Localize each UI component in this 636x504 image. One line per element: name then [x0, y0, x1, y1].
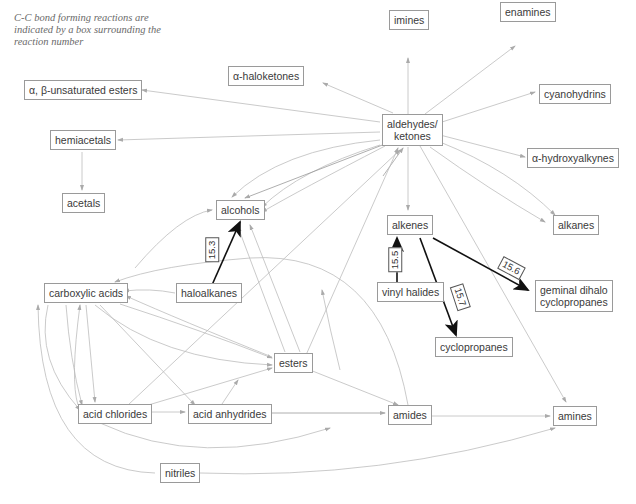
node-acid-anhydrides[interactable]: acid anhydrides [188, 404, 272, 424]
aldehydes-label: aldehydes/ [387, 118, 438, 130]
node-esters[interactable]: esters [274, 353, 313, 373]
legend-note: C-C bond forming reactions are indicated… [14, 12, 184, 48]
node-vinyl-halides[interactable]: vinyl halides [377, 282, 444, 302]
node-alcohols[interactable]: alcohols [216, 200, 265, 220]
node-cyanohydrins[interactable]: cyanohydrins [539, 84, 611, 104]
ketones-label: ketones [387, 130, 438, 142]
node-amides[interactable]: amides [388, 405, 432, 425]
node-carboxylic-acids[interactable]: carboxylic acids [44, 283, 128, 303]
node-unsaturated-esters[interactable]: α, β-unsaturated esters [24, 80, 142, 100]
node-haloalkanes[interactable]: haloalkanes [176, 283, 242, 303]
node-nitriles[interactable]: nitriles [160, 463, 200, 483]
node-hemiacetals[interactable]: hemiacetals [50, 130, 116, 150]
node-acetals[interactable]: acetals [62, 193, 105, 213]
node-cyclopropanes[interactable]: cyclopropanes [435, 337, 513, 357]
node-amines[interactable]: amines [553, 406, 597, 426]
node-geminal-dihalo-cyclopropanes[interactable]: geminal dihalo cyclopropanes [535, 280, 613, 312]
reaction-map-edges [0, 0, 636, 504]
node-alkenes[interactable]: alkenes [387, 215, 433, 235]
node-aldehydes-ketones[interactable]: aldehydes/ ketones [382, 114, 443, 146]
node-imines[interactable]: imines [389, 10, 429, 30]
node-alpha-hydroxyalkynes[interactable]: α-hydroxyalkynes [527, 148, 619, 168]
reaction-label-15-3: 15.3 [205, 238, 219, 263]
node-alpha-haloketones[interactable]: α-haloketones [228, 66, 304, 86]
geminal-label: geminal dihalo [540, 284, 608, 296]
reaction-label-15-5: 15.5 [388, 248, 402, 273]
node-acid-chlorides[interactable]: acid chlorides [78, 404, 152, 424]
cyclopropanes-label: cyclopropanes [540, 296, 608, 308]
node-alkanes[interactable]: alkanes [553, 215, 599, 235]
node-enamines[interactable]: enamines [500, 2, 556, 22]
